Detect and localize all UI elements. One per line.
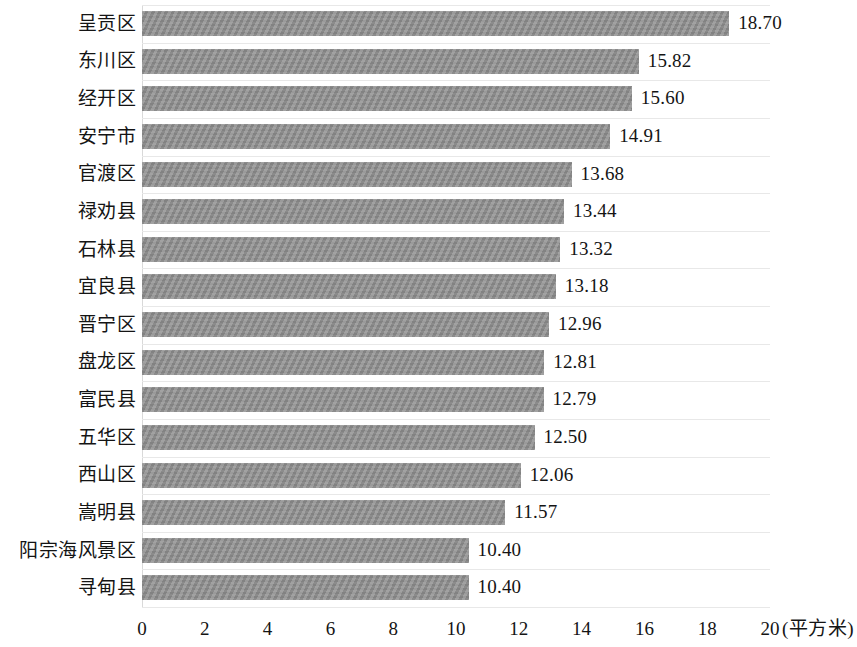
bar-chart: 18.7015.8215.6014.9113.6813.4413.3213.18… [0, 0, 857, 647]
bar-value-label: 12.79 [553, 386, 597, 412]
category-label: 石林县 [0, 237, 136, 263]
bar-rows: 18.7015.8215.6014.9113.6813.4413.3213.18… [142, 5, 770, 607]
bar[interactable] [142, 49, 639, 74]
plot-area: 18.7015.8215.6014.9113.6813.4413.3213.18… [142, 5, 770, 607]
bar-value-label: 10.40 [478, 537, 522, 563]
bar-value-label: 12.50 [544, 424, 588, 450]
bar-value-label: 15.60 [641, 85, 685, 111]
bar-value-label: 12.81 [553, 349, 597, 375]
bar-row: 13.18 [142, 268, 770, 306]
bar-value-label: 15.82 [648, 48, 692, 74]
category-label: 五华区 [0, 425, 136, 451]
bar-row: 13.44 [142, 193, 770, 231]
bar-value-label: 13.32 [569, 236, 613, 262]
category-axis-labels: 呈贡区东川区经开区安宁市官渡区禄劝县石林县宜良县晋宁区盘龙区富民县五华区西山区嵩… [0, 5, 136, 607]
bar[interactable] [142, 274, 556, 299]
x-tick-label: 12 [509, 617, 528, 641]
x-axis-unit-label: (平方米) [782, 617, 854, 641]
bar[interactable] [142, 124, 610, 149]
bar-row: 12.06 [142, 457, 770, 495]
bar-row: 10.40 [142, 532, 770, 570]
x-tick-label: 18 [698, 617, 717, 641]
bar-row: 11.57 [142, 494, 770, 532]
bar-row: 12.81 [142, 344, 770, 382]
category-label: 盘龙区 [0, 349, 136, 375]
bar[interactable] [142, 425, 535, 450]
bar[interactable] [142, 538, 469, 563]
bar-value-label: 12.96 [558, 311, 602, 337]
bar-row: 10.40 [142, 569, 770, 607]
bar[interactable] [142, 86, 632, 111]
x-tick-label: 0 [137, 617, 147, 641]
bar[interactable] [142, 237, 560, 262]
bar-row: 15.82 [142, 43, 770, 81]
category-label: 富民县 [0, 387, 136, 413]
category-label: 禄劝县 [0, 199, 136, 225]
x-tick-label: 4 [263, 617, 273, 641]
category-label: 呈贡区 [0, 11, 136, 37]
bar[interactable] [142, 387, 544, 412]
x-tick-label: 14 [572, 617, 591, 641]
bar-value-label: 11.57 [514, 499, 557, 525]
bar[interactable] [142, 463, 521, 488]
bar-row: 12.96 [142, 306, 770, 344]
bar[interactable] [142, 11, 729, 36]
bar-value-label: 13.44 [573, 198, 617, 224]
bar-value-label: 12.06 [530, 462, 574, 488]
category-label: 嵩明县 [0, 500, 136, 526]
bar[interactable] [142, 162, 572, 187]
category-label: 阳宗海风景区 [0, 538, 136, 564]
bar[interactable] [142, 500, 505, 525]
bar-value-label: 14.91 [619, 123, 663, 149]
bar-row: 15.60 [142, 80, 770, 118]
category-label: 东川区 [0, 48, 136, 74]
x-tick-label: 8 [388, 617, 398, 641]
x-tick-label: 10 [447, 617, 466, 641]
x-axis: 02468101214161820 [142, 607, 770, 647]
bar-row: 13.68 [142, 156, 770, 194]
category-label: 寻甸县 [0, 575, 136, 601]
category-label: 西山区 [0, 462, 136, 488]
bar-row: 12.50 [142, 419, 770, 457]
x-tick-label: 2 [200, 617, 210, 641]
bar-row: 12.79 [142, 381, 770, 419]
category-label: 宜良县 [0, 274, 136, 300]
bar-row: 18.70 [142, 5, 770, 43]
x-tick-label: 6 [326, 617, 336, 641]
bar[interactable] [142, 350, 544, 375]
bar[interactable] [142, 199, 564, 224]
bar-value-label: 13.18 [565, 273, 609, 299]
category-label: 官渡区 [0, 161, 136, 187]
bar[interactable] [142, 575, 469, 600]
category-label: 安宁市 [0, 124, 136, 150]
category-label: 经开区 [0, 86, 136, 112]
bar-value-label: 10.40 [478, 574, 522, 600]
bar-row: 14.91 [142, 118, 770, 156]
bar-row: 13.32 [142, 231, 770, 269]
bar-value-label: 18.70 [738, 10, 782, 36]
x-tick-label: 16 [635, 617, 654, 641]
bar-value-label: 13.68 [581, 161, 625, 187]
bar[interactable] [142, 312, 549, 337]
category-label: 晋宁区 [0, 312, 136, 338]
x-tick-label: 20 [761, 617, 780, 641]
